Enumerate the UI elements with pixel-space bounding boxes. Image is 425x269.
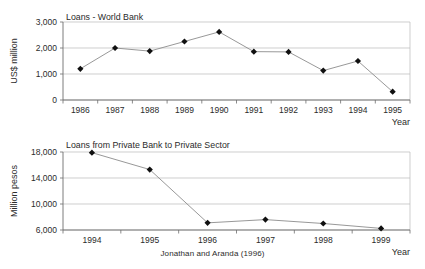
x-tick-label: 1995	[140, 235, 159, 245]
chart-loans-world-bank: 01,0002,0003,000198619871988198919901991…	[0, 4, 425, 130]
y-axis-title: US$ million	[9, 38, 19, 84]
y-axis-title: Million pesos	[9, 164, 19, 217]
series-line	[80, 32, 392, 92]
series-line	[92, 153, 381, 229]
x-axis-title: Year	[392, 117, 410, 127]
data-point-marker	[251, 49, 257, 55]
y-tick-label: 6,000	[36, 225, 58, 235]
chart-title: Loans - World Bank	[66, 12, 144, 22]
x-tick-label: 1988	[140, 105, 159, 115]
chart-title: Loans from Private Bank to Private Secto…	[66, 140, 230, 150]
y-tick-label: 1,000	[36, 69, 58, 79]
y-tick-label: 18,000	[31, 147, 57, 157]
data-point-marker	[112, 45, 118, 51]
data-point-marker	[320, 220, 326, 226]
data-point-marker	[285, 49, 291, 55]
data-point-marker	[181, 38, 187, 44]
x-tick-label: 1992	[279, 105, 298, 115]
y-tick-label: 10,000	[31, 199, 57, 209]
x-tick-label: 1996	[198, 235, 217, 245]
x-tick-label: 1990	[210, 105, 229, 115]
figure-container: 01,0002,0003,000198619871988198919901991…	[0, 0, 425, 269]
y-tick-label: 2,000	[36, 43, 58, 53]
x-tick-label: 1993	[314, 105, 333, 115]
x-tick-label: 1991	[244, 105, 263, 115]
x-tick-label: 1986	[71, 105, 90, 115]
x-tick-label: 1997	[256, 235, 275, 245]
data-point-marker	[378, 225, 384, 231]
data-point-marker	[77, 66, 83, 72]
y-tick-label: 14,000	[31, 173, 57, 183]
chart-top-canvas: 01,0002,0003,000198619871988198919901991…	[0, 4, 425, 130]
data-point-marker	[262, 217, 268, 223]
data-point-marker	[147, 48, 153, 54]
source-caption: Jonathan and Aranda (1996)	[0, 249, 425, 258]
x-tick-label: 1995	[383, 105, 402, 115]
x-tick-label: 1994	[82, 235, 101, 245]
data-point-marker	[320, 68, 326, 74]
x-tick-label: 1987	[106, 105, 125, 115]
y-tick-label: 3,000	[36, 17, 58, 27]
x-tick-label: 1998	[314, 235, 333, 245]
data-point-marker	[216, 29, 222, 35]
x-tick-label: 1999	[372, 235, 391, 245]
x-tick-label: 1989	[175, 105, 194, 115]
x-tick-label: 1994	[348, 105, 367, 115]
y-tick-label: 0	[52, 95, 57, 105]
data-point-marker	[89, 150, 95, 156]
